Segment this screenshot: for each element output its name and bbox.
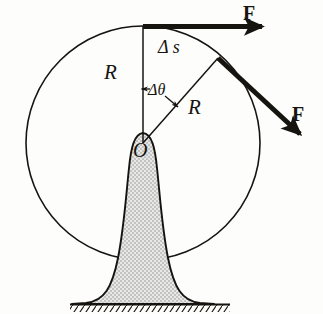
physics-diagram-figure: R R O Δ s Δθ F F (0, 0, 323, 314)
ground-hatching (70, 305, 230, 312)
arc-length-label: Δ s (158, 38, 180, 56)
center-label-O: O (133, 140, 147, 160)
angle-label: Δθ (148, 82, 165, 98)
angle-pointer-right-arrow (165, 96, 178, 107)
radius-label-left: R (104, 62, 117, 83)
force-label-top: F (243, 3, 255, 23)
radius-label-right: R (188, 97, 201, 118)
force-label-right: F (292, 104, 304, 124)
radius-slanted-line (143, 58, 218, 143)
